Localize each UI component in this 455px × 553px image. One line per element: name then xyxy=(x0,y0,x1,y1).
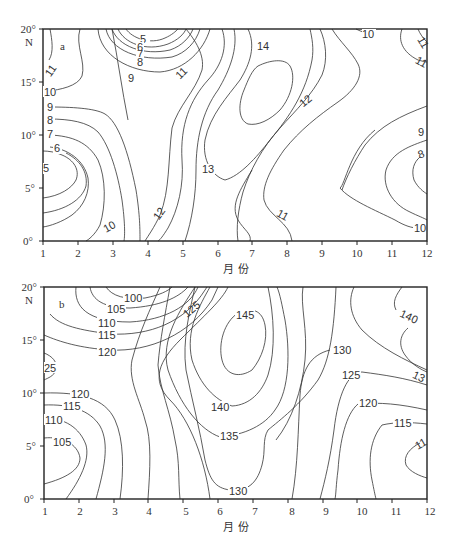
contour-a-10-lower xyxy=(340,130,418,228)
panel-label-a: a xyxy=(60,40,65,52)
contour-b-130 xyxy=(185,287,336,490)
contour-a-9 xyxy=(98,29,210,72)
contour-label: 10 xyxy=(414,222,426,234)
contour-label: 9 xyxy=(418,126,424,138)
contour-label: 105 xyxy=(53,436,71,448)
y-tick-label: 0° xyxy=(23,235,33,247)
contour-label: 13 xyxy=(202,163,214,175)
y-tick-label: 20° xyxy=(22,281,37,293)
contour-label: 11 xyxy=(413,436,429,452)
contour-label: 115 xyxy=(394,417,412,429)
contour-label: 6 xyxy=(54,142,60,154)
contour-label: 125 xyxy=(342,369,360,381)
contour-b-125-right xyxy=(320,372,427,499)
contour-a-11-bottom xyxy=(235,170,252,241)
contour-a-7 xyxy=(112,29,193,52)
contour-label: 145 xyxy=(236,309,254,321)
contour-a-10-mid xyxy=(112,29,128,120)
contour-label: 110 xyxy=(98,317,116,329)
x-tick-label: 9 xyxy=(319,247,325,259)
panel-b: 1 2 3 4 5 6 7 8 9 10 11 12 月 份 0° 5° 10°… xyxy=(22,281,436,534)
x-tick-label: 2 xyxy=(77,505,83,517)
y-tick-label: 5° xyxy=(26,440,36,452)
contour-a-11-left xyxy=(49,29,52,60)
contour-label: 5 xyxy=(43,162,49,174)
contour-b-125-mid xyxy=(131,287,160,499)
contour-a-5 xyxy=(126,29,178,41)
x-tick-label: 11 xyxy=(391,505,402,517)
contour-label: 25 xyxy=(44,362,56,374)
x-tick-label: 3 xyxy=(112,505,118,517)
contour-labels-b: 100 105 110 115 120 125 25 120 115 110 1… xyxy=(44,292,429,497)
contour-label: 130 xyxy=(333,344,351,356)
x-tick-label: 5 xyxy=(180,247,186,259)
contour-label: 10 xyxy=(362,28,374,40)
x-tick-label: 10 xyxy=(357,505,369,517)
contour-b-110-left xyxy=(44,419,87,499)
x-tick-label: 7 xyxy=(252,505,258,517)
y-tick-label: 10° xyxy=(22,387,37,399)
x-tick-label: 4 xyxy=(145,247,151,259)
contour-label: 8 xyxy=(47,114,53,126)
contour-a-10-left xyxy=(47,29,83,91)
contour-label: 120 xyxy=(359,397,377,409)
contour-label: 9 xyxy=(128,72,134,84)
x-tick-label: 10 xyxy=(352,247,364,259)
contour-label: 10 xyxy=(101,218,118,235)
x-axis-b: 1 2 3 4 5 6 7 8 9 10 11 12 月 份 xyxy=(42,499,435,534)
x-tick-label: 12 xyxy=(425,505,436,517)
contour-a-11 xyxy=(158,29,224,241)
panel-label-b: b xyxy=(59,298,65,310)
x-tick-label: 12 xyxy=(422,247,433,259)
x-axis-a: 1 2 3 4 5 6 7 8 9 10 11 12 月 份 xyxy=(40,241,432,276)
contour-a-6-left xyxy=(43,147,88,227)
y-unit-label: N xyxy=(25,294,33,306)
y-tick-label: 15° xyxy=(21,76,36,88)
contour-label: 11 xyxy=(173,65,190,82)
x-tick-label: 8 xyxy=(289,505,295,517)
y-tick-label: 5° xyxy=(25,182,35,194)
contour-label: 100 xyxy=(124,292,142,304)
x-tick-label: 3 xyxy=(110,247,116,259)
contour-label: 11 xyxy=(42,62,58,78)
contour-b-130-center xyxy=(276,287,306,440)
y-tick-label: 0° xyxy=(24,493,34,505)
contour-label: 14 xyxy=(257,40,269,52)
contour-label: 11 xyxy=(275,207,291,223)
contour-label: 130 xyxy=(229,485,247,497)
y-axis-b: 0° 5° 10° 15° 20° N xyxy=(22,281,44,505)
contour-label: 115 xyxy=(63,400,81,412)
contour-label: 8 xyxy=(137,56,143,68)
panel-a: 1 2 3 4 5 6 7 8 9 10 11 12 月 份 0° 5° 10°… xyxy=(21,23,433,276)
contour-label: 115 xyxy=(98,329,116,341)
contour-label: 9 xyxy=(47,101,53,113)
figure: 1 2 3 4 5 6 7 8 9 10 11 12 月 份 0° 5° 10°… xyxy=(0,0,455,553)
contour-b-130-right xyxy=(351,287,427,370)
x-axis-title-b: 月 份 xyxy=(223,521,249,534)
contour-a-14 xyxy=(240,61,293,125)
contour-b-140 xyxy=(190,287,273,406)
contour-a-9-right xyxy=(342,106,427,190)
contour-a-12 xyxy=(185,29,235,241)
y-axis-a: 0° 5° 10° 15° 20° N xyxy=(21,23,43,247)
y-tick-label: 20° xyxy=(21,23,36,35)
contour-label: 11 xyxy=(415,34,431,50)
contour-label: 8 xyxy=(416,147,426,160)
contour-a-8-right xyxy=(413,157,427,194)
contour-label: 10 xyxy=(44,86,56,98)
contour-b-115-right xyxy=(370,423,427,499)
x-tick-label: 1 xyxy=(42,505,48,517)
contour-b-125 xyxy=(159,287,228,499)
contour-label: 135 xyxy=(220,430,238,442)
y-tick-label: 15° xyxy=(22,334,37,346)
x-tick-label: 5 xyxy=(183,505,189,517)
contour-b-140-right xyxy=(394,287,427,372)
x-tick-label: 1 xyxy=(40,247,46,259)
contour-label: 12 xyxy=(150,205,167,222)
contour-a-6b-left xyxy=(43,151,77,198)
y-tick-label: 10° xyxy=(21,129,36,141)
x-tick-label: 6 xyxy=(217,505,223,517)
contour-b-120-right xyxy=(335,403,427,499)
x-tick-label: 11 xyxy=(387,247,398,259)
x-tick-label: 4 xyxy=(146,505,152,517)
